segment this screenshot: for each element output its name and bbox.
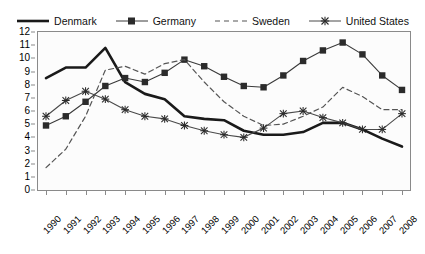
data-point-marker xyxy=(240,133,248,141)
data-point-marker xyxy=(200,127,208,135)
data-point-marker xyxy=(279,110,287,118)
x-tick-mark xyxy=(145,191,146,195)
legend-swatch-sweden xyxy=(214,15,248,27)
x-tick-mark xyxy=(125,191,126,195)
x-tick-mark xyxy=(165,191,166,195)
x-tick-mark xyxy=(362,191,363,195)
x-tick-mark xyxy=(224,191,225,195)
y-tick-label: 9 xyxy=(24,67,30,77)
y-tick-mark xyxy=(31,137,35,138)
y-tick-label: 5 xyxy=(24,119,30,129)
chart-legend: Denmark Germany Sweden xyxy=(0,12,425,30)
legend-swatch-germany xyxy=(115,15,149,27)
data-point-marker xyxy=(260,84,266,90)
x-tick-mark xyxy=(204,191,205,195)
data-point-marker xyxy=(43,122,49,128)
x-tick-mark xyxy=(283,191,284,195)
data-point-marker xyxy=(241,83,247,89)
plot-area xyxy=(37,31,411,191)
series-united-states xyxy=(42,87,406,141)
data-point-marker xyxy=(339,39,345,45)
y-tick-label: 1 xyxy=(24,172,30,182)
data-point-marker xyxy=(300,58,306,64)
x-tick-label: 2008 xyxy=(412,199,425,221)
data-point-marker xyxy=(102,83,108,89)
x-tick-mark xyxy=(323,191,324,195)
y-tick-mark xyxy=(31,150,35,151)
y-tick-label: 3 xyxy=(24,146,30,156)
y-tick-label: 8 xyxy=(24,80,30,90)
y-tick-label: 12 xyxy=(19,27,30,37)
data-point-marker xyxy=(161,115,169,123)
y-tick-label: 2 xyxy=(24,159,30,169)
data-point-marker xyxy=(299,107,307,115)
y-tick-label: 7 xyxy=(24,93,30,103)
data-point-marker xyxy=(101,95,109,103)
data-point-marker xyxy=(359,51,365,57)
data-point-marker xyxy=(280,72,286,78)
legend-label-germany: Germany xyxy=(153,15,196,27)
x-tick-mark xyxy=(402,191,403,195)
legend-item-germany: Germany xyxy=(115,15,196,27)
x-axis: 1990199119921993199419951996199719981999… xyxy=(0,191,425,251)
x-tick-mark xyxy=(184,191,185,195)
x-tick-mark xyxy=(382,191,383,195)
data-point-marker xyxy=(122,75,128,81)
data-point-marker xyxy=(121,106,129,114)
data-point-marker xyxy=(181,122,189,130)
data-point-marker xyxy=(82,99,88,105)
data-point-marker xyxy=(379,72,385,78)
data-point-marker xyxy=(82,87,90,95)
data-point-marker xyxy=(320,47,326,53)
x-tick-mark xyxy=(66,191,67,195)
data-point-marker xyxy=(201,63,207,69)
x-tick-mark xyxy=(244,191,245,195)
y-tick-label: 10 xyxy=(19,53,30,63)
legend-swatch-united-states xyxy=(308,15,342,27)
y-tick-mark xyxy=(31,97,35,98)
legend-item-sweden: Sweden xyxy=(214,15,290,27)
data-point-marker xyxy=(339,119,347,127)
series-line xyxy=(46,91,402,137)
data-point-marker xyxy=(398,110,406,118)
data-point-marker xyxy=(62,97,70,105)
x-tick-mark xyxy=(86,191,87,195)
y-tick-mark xyxy=(31,124,35,125)
data-point-marker xyxy=(141,112,149,120)
data-point-marker xyxy=(359,126,367,134)
data-point-marker xyxy=(399,87,405,93)
legend-label-sweden: Sweden xyxy=(252,15,290,27)
y-axis: 0123456789101112 xyxy=(0,31,35,191)
data-point-marker xyxy=(63,113,69,119)
y-tick-mark xyxy=(31,71,35,72)
data-point-marker xyxy=(142,79,148,85)
x-tick-mark xyxy=(343,191,344,195)
x-tick-mark xyxy=(303,191,304,195)
line-chart: Denmark Germany Sweden xyxy=(0,0,425,254)
series-layer xyxy=(38,32,410,190)
legend-label-united-states: United States xyxy=(346,15,409,27)
y-tick-mark xyxy=(31,45,35,46)
data-point-marker xyxy=(161,70,167,76)
x-tick-mark xyxy=(105,191,106,195)
x-tick-mark xyxy=(264,191,265,195)
y-tick-mark xyxy=(31,111,35,112)
data-point-marker xyxy=(319,114,327,122)
legend-label-denmark: Denmark xyxy=(54,15,97,27)
data-point-marker xyxy=(260,124,268,132)
y-tick-mark xyxy=(31,163,35,164)
y-tick-label: 4 xyxy=(24,132,30,142)
y-tick-label: 6 xyxy=(24,106,30,116)
data-point-marker xyxy=(378,126,386,134)
legend-item-united-states: United States xyxy=(308,15,409,27)
y-tick-mark xyxy=(31,84,35,85)
data-point-marker xyxy=(221,74,227,80)
y-tick-label: 11 xyxy=(20,40,30,50)
data-point-marker xyxy=(220,131,228,139)
y-tick-mark xyxy=(31,32,35,33)
x-tick-mark xyxy=(46,191,47,195)
series-germany xyxy=(43,39,405,128)
y-tick-mark xyxy=(31,176,35,177)
data-point-marker xyxy=(42,112,50,120)
y-tick-mark xyxy=(31,58,35,59)
